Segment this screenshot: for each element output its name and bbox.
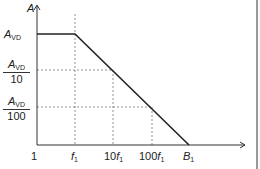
bode-plot bbox=[0, 0, 260, 169]
y-axis-label: A bbox=[27, 3, 34, 14]
x-tick-100f1: 100f1 bbox=[139, 151, 164, 163]
x-tick-1: 1 bbox=[31, 151, 37, 162]
y-tick-avd-10: AVD 10 bbox=[3, 59, 30, 85]
x-tick-f1: f1 bbox=[71, 151, 78, 163]
gain-curve bbox=[37, 34, 189, 145]
y-tick-avd-100: AVD 100 bbox=[3, 96, 30, 122]
page-border bbox=[256, 0, 258, 169]
x-tick-b1: B1 bbox=[183, 151, 194, 163]
y-tick-avd: AVD bbox=[4, 29, 21, 41]
x-tick-10f1: 10f1 bbox=[104, 151, 123, 163]
